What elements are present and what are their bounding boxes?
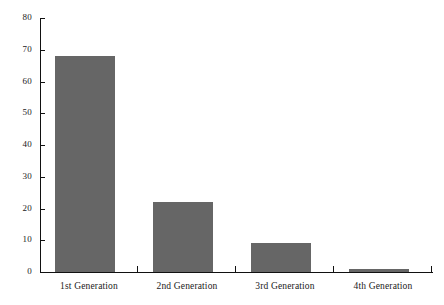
y-axis-tick: [40, 272, 45, 273]
y-axis-tick-label: 0: [10, 267, 32, 276]
y-axis-tick-label: 10: [10, 235, 32, 244]
y-axis-label-wrap: 80: [8, 18, 32, 19]
x-axis-category-label: 3rd Generation: [236, 281, 334, 292]
y-axis-label-wrap: 30: [8, 177, 32, 178]
y-axis-label-wrap: 40: [8, 145, 32, 146]
bars-group: [40, 18, 432, 272]
bar: [349, 269, 409, 272]
bar-chart: 01020304050607080 1st Generation2nd Gene…: [0, 0, 444, 305]
x-axis-line: [40, 272, 433, 273]
x-axis-category-label: 1st Generation: [40, 281, 138, 292]
bar: [153, 202, 213, 272]
y-axis-tick-label: 20: [10, 204, 32, 213]
bar: [251, 243, 311, 272]
y-axis-label-wrap: 0: [8, 272, 32, 273]
x-axis-category-label: 2nd Generation: [138, 281, 236, 292]
y-axis-label-wrap: 60: [8, 82, 32, 83]
y-axis-label-wrap: 70: [8, 50, 32, 51]
y-axis-tick-label: 30: [10, 172, 32, 181]
y-axis-label-wrap: 10: [8, 240, 32, 241]
y-axis-tick-label: 50: [10, 108, 32, 117]
y-axis-tick-label: 70: [10, 45, 32, 54]
y-axis-tick-label: 60: [10, 77, 32, 86]
x-axis-category-label: 4th Generation: [334, 281, 432, 292]
y-axis-tick-label: 40: [10, 140, 32, 149]
y-axis-tick-label: 80: [10, 13, 32, 22]
y-axis-label-wrap: 20: [8, 209, 32, 210]
y-axis-label-wrap: 50: [8, 113, 32, 114]
bar: [55, 56, 115, 272]
